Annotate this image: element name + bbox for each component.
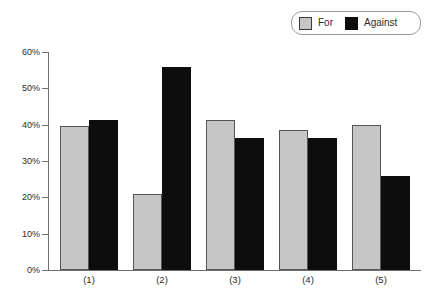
legend-swatch-for-icon: [299, 17, 312, 30]
bar-group-2: [133, 52, 191, 270]
bar-group-3: [206, 52, 264, 270]
bar-group-4: [279, 52, 337, 270]
plot-area: [48, 52, 421, 270]
bar-chart: For Against 0% 10% 20% 30% 40% 50% 60%: [0, 0, 431, 296]
bar-for-1[interactable]: [60, 126, 89, 270]
legend-label-for: For: [318, 18, 333, 28]
y-tick-label-10: 10%: [2, 230, 40, 239]
y-tick-label-30: 30%: [2, 157, 40, 166]
y-tick-mark-0: [42, 270, 48, 271]
bar-against-4[interactable]: [308, 138, 337, 270]
bar-for-4[interactable]: [279, 130, 308, 270]
bar-against-3[interactable]: [235, 138, 264, 270]
x-axis-line: [48, 270, 421, 271]
y-tick-label-0: 0%: [2, 266, 40, 275]
y-tick-label-60: 60%: [2, 48, 40, 57]
y-tick-label-50: 50%: [2, 84, 40, 93]
legend-entry-against[interactable]: Against: [345, 17, 397, 30]
bar-for-5[interactable]: [352, 125, 381, 270]
y-tick-label-20: 20%: [2, 193, 40, 202]
x-tick-label-3: (3): [206, 275, 264, 285]
y-tick-label-40: 40%: [2, 121, 40, 130]
bar-group-5: [352, 52, 410, 270]
bar-for-3[interactable]: [206, 120, 235, 270]
bar-against-1[interactable]: [89, 120, 118, 270]
x-tick-label-4: (4): [279, 275, 337, 285]
legend-swatch-against-icon: [345, 17, 358, 30]
bar-group-1: [60, 52, 118, 270]
legend-entry-for[interactable]: For: [299, 17, 333, 30]
x-tick-label-2: (2): [133, 275, 191, 285]
chart-legend: For Against: [291, 11, 421, 35]
bar-against-5[interactable]: [381, 176, 410, 270]
bar-against-2[interactable]: [162, 67, 191, 270]
bar-for-2[interactable]: [133, 194, 162, 270]
x-tick-label-5: (5): [352, 275, 410, 285]
legend-label-against: Against: [364, 18, 397, 28]
x-tick-label-1: (1): [60, 275, 118, 285]
